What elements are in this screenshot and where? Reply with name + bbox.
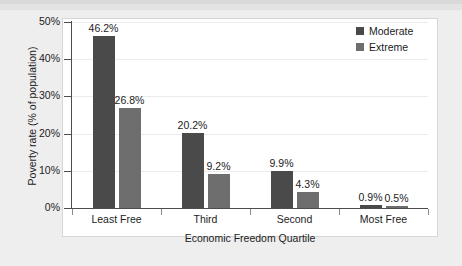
bar-extreme-least-free <box>119 108 141 208</box>
x-axis-title: Economic Freedom Quartile <box>62 232 438 244</box>
legend-label: Moderate <box>369 26 413 36</box>
bar-moderate-least-free <box>93 36 115 208</box>
legend-swatch-icon <box>356 43 364 51</box>
y-axis-tick <box>64 171 71 172</box>
legend-item-moderate[interactable]: Moderate <box>356 24 413 38</box>
y-axis-tick <box>64 59 71 60</box>
legend-label: Extreme <box>369 42 408 52</box>
bar-extreme-second <box>297 192 319 208</box>
bar-value-label: 9.9% <box>259 157 305 169</box>
bar-value-label: 9.2% <box>196 160 242 172</box>
bar-value-label: 26.8% <box>107 94 153 106</box>
y-axis-tick-label: 50% <box>0 15 60 27</box>
top-background-band-edge <box>0 0 462 4</box>
y-axis-tick <box>64 96 71 97</box>
bar-value-label: 20.2% <box>170 119 216 131</box>
y-axis-tick <box>64 22 71 23</box>
bar-moderate-most-free <box>360 205 382 208</box>
bar-value-label: 46.2% <box>81 22 127 34</box>
x-axis-label-most-free: Most Free <box>329 213 439 225</box>
y-axis-tick <box>64 134 71 135</box>
y-axis-tick-label: 0% <box>0 201 60 213</box>
legend: Moderate Extreme <box>356 24 413 56</box>
bar-extreme-third <box>208 174 230 208</box>
y-axis-title: Poverty rate (% of population) <box>26 21 38 211</box>
bar-extreme-most-free <box>386 206 408 208</box>
bar-value-label: 4.3% <box>285 178 331 190</box>
y-axis-tick <box>64 208 71 209</box>
chart-screenshot: Poverty rate (% of population) 0%10%20%3… <box>0 0 462 266</box>
legend-item-extreme[interactable]: Extreme <box>356 40 413 54</box>
y-axis-tick-label: 40% <box>0 52 60 64</box>
y-axis-tick-label: 30% <box>0 89 60 101</box>
y-axis-tick-label: 20% <box>0 127 60 139</box>
legend-swatch-icon <box>356 27 364 35</box>
y-axis-tick-label: 10% <box>0 164 60 176</box>
bar-value-label: 0.5% <box>374 192 420 204</box>
